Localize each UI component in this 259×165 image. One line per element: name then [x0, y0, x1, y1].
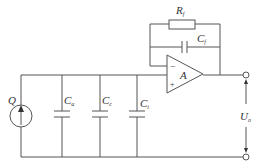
feedback-resistor-label: Rf — [175, 4, 186, 17]
opamp-plus-label: + — [170, 80, 175, 89]
output-voltage-label: Uo — [240, 110, 251, 123]
arrow-down-icon — [244, 148, 248, 153]
source-label: Q — [8, 94, 16, 106]
opamp-label: A — [179, 69, 187, 81]
feedback-capacitor-label: Cf — [197, 32, 207, 45]
charge-source — [10, 75, 32, 157]
opamp-minus-label: − — [170, 61, 175, 71]
circuit-diagram: Q Ca Cc Ci A − + Rf — [0, 0, 259, 165]
capacitor-i — [129, 75, 145, 157]
feedback-capacitor — [150, 41, 220, 53]
capacitor-a — [54, 75, 70, 157]
arrow-up-icon — [244, 79, 248, 84]
cap-c-label: Cc — [102, 94, 112, 107]
output-terminal-top — [243, 72, 249, 78]
capacitor-c — [92, 75, 108, 157]
cap-i-label: Ci — [140, 97, 149, 110]
cap-a-label: Ca — [64, 94, 74, 107]
output-terminal-bottom — [243, 154, 249, 160]
